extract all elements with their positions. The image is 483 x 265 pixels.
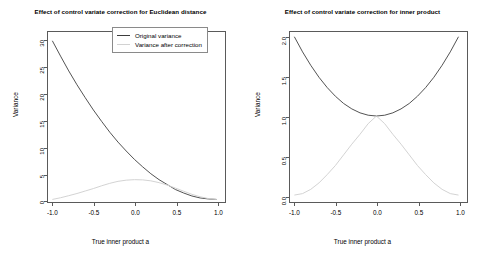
- x-axis-title-right: True inner product a: [242, 238, 483, 245]
- y-tick-label-left-30: 30: [39, 40, 45, 47]
- plot-area-left: 0 5 10 15 20 25 30 -1.0 -0.5 0.0 0.5 1.0: [47, 31, 226, 203]
- x-tick-label-left-n1: -1.0: [47, 209, 58, 216]
- legend-left: Original variance Variance after correct…: [112, 27, 208, 53]
- x-tick-label-left-0: 0.0: [131, 209, 140, 216]
- y-tick-label-left-25: 25: [39, 67, 45, 74]
- curve-original-left: [52, 41, 216, 200]
- x-tick-right-05: [419, 202, 420, 206]
- panel-title-left: Effect of control variate correction for…: [0, 8, 241, 16]
- y-tick-label-left-0: 0: [39, 201, 45, 204]
- legend-swatch-original-icon: [117, 35, 130, 36]
- y-tick-label-left-10: 10: [39, 148, 45, 155]
- plot-curves-right: [290, 32, 467, 202]
- legend-label-original: Original variance: [135, 31, 181, 40]
- y-axis-title-left: Variance: [12, 92, 19, 117]
- y-tick-label-left-20: 20: [39, 94, 45, 101]
- y-tick-label-left-5: 5: [39, 175, 45, 178]
- legend-label-corrected: Variance after correction: [135, 40, 202, 49]
- legend-swatch-corrected-icon: [117, 44, 130, 45]
- x-tick-label-left-05: 0.5: [172, 209, 181, 216]
- curve-corrected-right: [294, 116, 458, 195]
- x-axis-title-left: True inner product a: [0, 238, 241, 245]
- y-axis-title-right: Variance: [254, 92, 261, 117]
- x-tick-label-right-05: 0.5: [414, 209, 423, 216]
- x-tick-label-left-n05: -0.5: [88, 209, 99, 216]
- x-tick-left-1: [218, 202, 219, 206]
- x-tick-label-right-0: 0.0: [373, 209, 382, 216]
- curve-corrected-left: [52, 180, 216, 200]
- x-tick-right-n05: [336, 202, 337, 206]
- x-tick-right-1: [460, 202, 461, 206]
- plot-curves-left: [48, 32, 225, 202]
- y-tick-label-right-15: 1.5: [281, 77, 287, 85]
- y-tick-label-left-15: 15: [39, 121, 45, 128]
- x-tick-left-05: [177, 202, 178, 206]
- curve-original-right: [294, 37, 458, 116]
- plot-area-right: 0.0 0.5 1.0 1.5 2.0 -1.0 -0.5 0.0 0.5 1.…: [289, 31, 468, 203]
- x-tick-right-n1: [294, 202, 295, 206]
- x-tick-label-right-1: 1.0: [456, 209, 465, 216]
- y-tick-label-right-05: 0.5: [281, 157, 287, 165]
- y-tick-label-right-10: 1.0: [281, 117, 287, 125]
- two-panel-figure: Effect of control variate correction for…: [0, 0, 483, 265]
- x-tick-right-0: [377, 202, 378, 206]
- x-tick-left-0: [135, 202, 136, 206]
- panel-euclidean-distance: Effect of control variate correction for…: [0, 0, 241, 265]
- x-tick-left-n05: [94, 202, 95, 206]
- x-tick-label-right-n1: -1.0: [289, 209, 300, 216]
- x-tick-label-left-1: 1.0: [214, 209, 223, 216]
- panel-inner-product: Effect of control variate correction for…: [242, 0, 483, 265]
- legend-row-original: Original variance: [117, 31, 202, 40]
- y-tick-label-right-20: 2.0: [281, 37, 287, 45]
- panel-title-right: Effect of control variate correction for…: [242, 8, 483, 16]
- y-tick-label-right-00: 0.0: [281, 197, 287, 205]
- x-tick-left-n1: [52, 202, 53, 206]
- legend-row-corrected: Variance after correction: [117, 40, 202, 49]
- x-tick-label-right-n05: -0.5: [330, 209, 341, 216]
